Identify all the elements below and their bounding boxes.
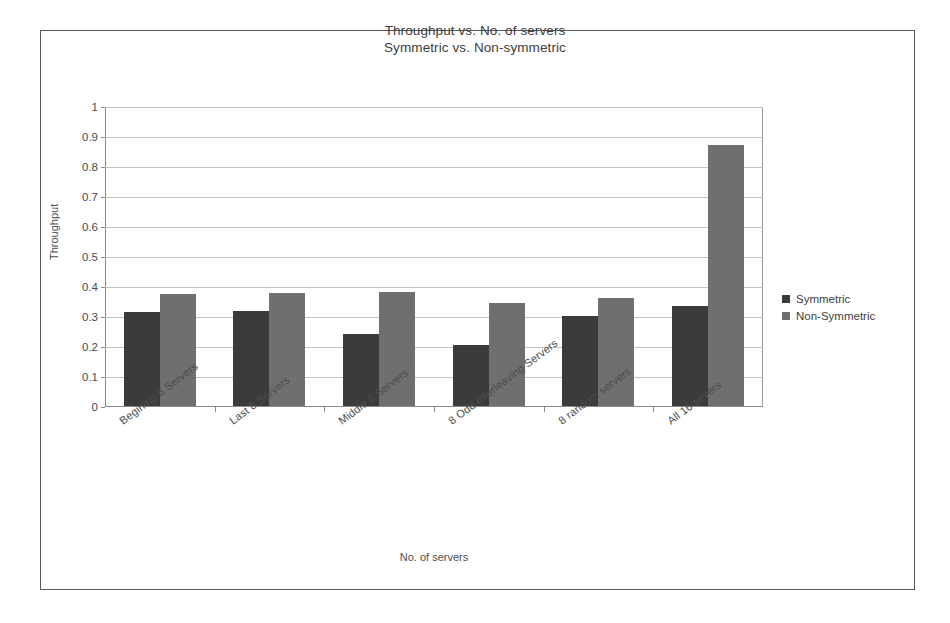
bar-group: [544, 107, 654, 406]
x-axis-tick-mark: [324, 407, 325, 412]
x-axis-tick-mark: [215, 407, 216, 412]
y-axis-tick-label: 0.4: [82, 281, 98, 293]
x-axis-tick-mark: [544, 407, 545, 412]
y-axis-tick-label: 0.9: [82, 131, 98, 143]
bar-group: [324, 107, 434, 406]
y-axis-title: Throughput: [48, 204, 60, 260]
x-axis-tick-mark: [434, 407, 435, 412]
bar-group: [105, 107, 215, 406]
legend-item: Non-Symmetric: [782, 307, 875, 324]
chart-title-line-1: Throughput vs. No. of servers: [385, 23, 566, 38]
y-axis-tick-label: 0.7: [82, 191, 98, 203]
y-axis-tick-label: 0.1: [82, 371, 98, 383]
y-axis-tick-label: 0.2: [82, 341, 98, 353]
bar-group: [215, 107, 325, 406]
y-axis-tick-label: 0.5: [82, 251, 98, 263]
legend-item: Symmetric: [782, 290, 875, 307]
bar: [708, 145, 744, 406]
legend-label: Symmetric: [796, 293, 850, 305]
plot-area: 10.90.80.70.60.50.40.30.20.10: [105, 107, 763, 407]
y-axis-tick-label: 1: [92, 101, 98, 113]
bar-group: [653, 107, 763, 406]
y-axis-tick-mark: [101, 407, 105, 408]
legend-label: Non-Symmetric: [796, 310, 875, 322]
chart-title: Throughput vs. No. of servers Symmetric …: [0, 22, 950, 56]
y-axis-tick-label: 0: [92, 401, 98, 413]
legend-swatch: [782, 312, 790, 320]
chart-title-line-2: Symmetric vs. Non-symmetric: [0, 39, 950, 56]
x-axis-tick-mark: [653, 407, 654, 412]
chart-legend: SymmetricNon-Symmetric: [782, 290, 875, 324]
legend-swatch: [782, 295, 790, 303]
x-axis-title: No. of servers: [105, 551, 763, 563]
y-axis-tick-label: 0.6: [82, 221, 98, 233]
y-axis-tick-label: 0.8: [82, 161, 98, 173]
y-axis-tick-label: 0.3: [82, 311, 98, 323]
